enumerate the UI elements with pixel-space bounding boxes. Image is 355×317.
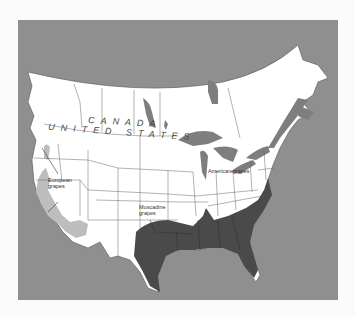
european-grapes-label: European grapes: [48, 178, 72, 189]
map-canvas: [18, 20, 338, 300]
map-frame: CANADA UNITED STATES European grapes Mus…: [18, 20, 338, 300]
muscadine-grapes-label: Muscadine grapes: [139, 205, 166, 216]
american-grapes-label: American grapes: [208, 169, 250, 175]
land-mass: [28, 45, 328, 292]
